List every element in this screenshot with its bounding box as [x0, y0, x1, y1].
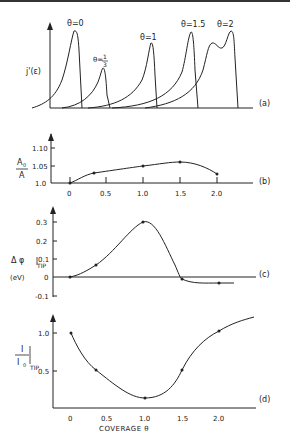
- panel-a: θ=0 θ= 1 3 θ=1 θ=1.5 θ=2 j'(ε) (a): [25, 19, 270, 108]
- x-tick-d-0: 0: [68, 415, 72, 423]
- y-tick-b-1-05: 1.05: [32, 163, 48, 171]
- label-theta-0: θ=0: [67, 19, 84, 28]
- x-tick-d-2-0: 2.0: [213, 415, 224, 423]
- x-tick-d-1-0: 1.0: [139, 415, 150, 423]
- svg-text:1: 1: [103, 53, 107, 60]
- curve-theta-one-third: [62, 68, 110, 108]
- x-tick-d-0-5: 0.5: [101, 415, 112, 423]
- y-tick-b-1-10: 1.10: [32, 145, 48, 153]
- y-label-d: I I 0 TIP: [15, 345, 39, 371]
- curve-theta-1: [88, 43, 157, 108]
- y-tick-c-0: 0: [44, 274, 48, 282]
- curve-c: [70, 222, 234, 283]
- panel-label-c: (c): [259, 270, 270, 279]
- panel-label-d: (d): [259, 395, 270, 404]
- y-tick-b-1-0: 1.0: [35, 180, 46, 188]
- svg-text:0: 0: [23, 362, 26, 368]
- y-tick-c-0-3: 0.3: [36, 219, 47, 227]
- panel-c: 0.3 0.2 0.1 0 -0.1 Δ φ TIP (eV) (c): [10, 206, 270, 301]
- svg-text:TIP: TIP: [29, 364, 39, 371]
- x-tick-d-1-5: 1.5: [177, 415, 188, 423]
- y-tick-c-neg-0-1: -0.1: [35, 293, 49, 301]
- x-tick-b-0-5: 0.5: [100, 190, 111, 198]
- svg-text:(eV): (eV): [10, 274, 25, 282]
- y-axis-arrow-icon: [48, 133, 54, 141]
- panel-d: 1.0 0.5 0 0.5 1.0 1.5 2.0 COVERAGE θ I I…: [15, 314, 270, 433]
- figure: θ=0 θ= 1 3 θ=1 θ=1.5 θ=2 j'(ε) (a) 1.10 …: [0, 0, 290, 448]
- y-axis-arrow-icon: [50, 314, 56, 322]
- y-tick-d-0-5: 0.5: [38, 368, 49, 376]
- label-theta-one-third-fraction: 1 3: [102, 53, 108, 68]
- curve-d: [71, 317, 254, 398]
- svg-text:I: I: [17, 358, 19, 367]
- y-label-b: A 0 A: [16, 158, 28, 180]
- label-theta-1-5: θ=1.5: [181, 20, 205, 29]
- y-label-a: j'(ε): [25, 67, 41, 76]
- panel-label-b: (b): [259, 177, 270, 186]
- svg-text:3: 3: [103, 61, 107, 68]
- y-tick-c-0-2: 0.2: [36, 238, 47, 246]
- y-tick-d-1-0: 1.0: [38, 330, 49, 338]
- panel-b: 1.10 1.05 1.0 0 0.5 1.0 1.5 2.0 A 0 A (b…: [16, 133, 270, 198]
- svg-text:Δ φ: Δ φ: [11, 256, 24, 265]
- curve-theta-2: [145, 31, 238, 108]
- x-label-coverage: COVERAGE θ: [99, 425, 149, 433]
- svg-text:TIP: TIP: [36, 262, 46, 269]
- svg-text:0: 0: [23, 162, 26, 168]
- x-tick-b-1-5: 1.5: [175, 190, 186, 198]
- y-axis-arrow-icon: [47, 22, 53, 30]
- y-axis-arrow-icon: [50, 206, 56, 214]
- svg-text:A: A: [19, 171, 25, 180]
- x-tick-b-1-0: 1.0: [137, 190, 148, 198]
- label-theta-2: θ=2: [217, 20, 234, 29]
- panel-label-a: (a): [259, 99, 270, 108]
- svg-text:I: I: [21, 345, 23, 354]
- x-tick-b-0: 0: [67, 190, 71, 198]
- x-tick-b-2-0: 2.0: [211, 190, 222, 198]
- label-theta-one-third-prefix: θ=: [93, 56, 103, 64]
- label-theta-1: θ=1: [140, 33, 157, 42]
